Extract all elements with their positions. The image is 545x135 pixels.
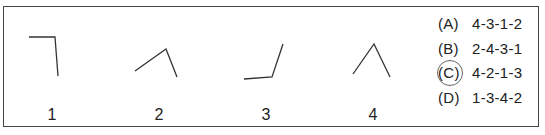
figure-4-shape [353,44,390,77]
option-c[interactable]: (C)4-2-1-3 [438,64,522,81]
figure-1-shape [29,37,58,76]
figure-3-label: 3 [256,106,276,124]
option-b[interactable]: (B)2-4-3-1 [438,40,522,57]
figure-2-shape [135,49,177,77]
figure-3-shape [244,44,283,79]
option-c-key: (C) [438,64,472,81]
option-b-value: 2-4-3-1 [472,40,522,57]
option-c-value: 4-2-1-3 [472,64,522,81]
option-a[interactable]: (A)4-3-1-2 [438,15,522,32]
option-a-value: 4-3-1-2 [472,15,522,32]
option-b-key: (B) [438,40,472,57]
option-d-value: 1-3-4-2 [472,89,522,106]
option-a-key: (A) [438,15,472,32]
option-d[interactable]: (D)1-3-4-2 [438,89,522,106]
figure-1-label: 1 [42,106,62,124]
option-d-key: (D) [438,89,472,106]
figure-2-label: 2 [149,106,169,124]
figure-4-label: 4 [363,106,383,124]
